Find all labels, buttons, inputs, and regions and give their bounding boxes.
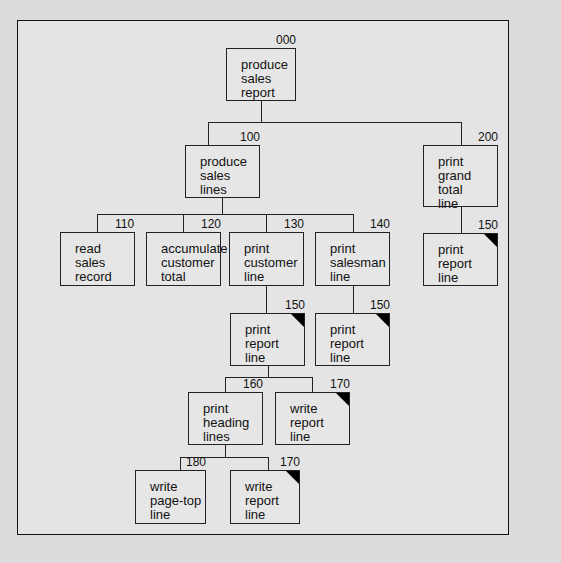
module-box: write report line (275, 392, 350, 445)
module-label: read sales record (75, 242, 112, 284)
shared-module-marker-icon (291, 314, 304, 327)
shared-module-marker-icon (376, 314, 389, 327)
module-number: 150 (478, 218, 498, 232)
shared-module-marker-icon (484, 234, 497, 247)
module-label: print customer line (244, 242, 297, 284)
module-label: print salesman line (330, 242, 386, 284)
module-number: 150 (370, 298, 390, 312)
module-box: print report line (230, 313, 305, 366)
module-box: print salesman line (315, 232, 390, 286)
module-box: print report line (423, 233, 498, 286)
module-box: write report line (230, 470, 300, 524)
module-number: 170 (330, 377, 350, 391)
module-number: 120 (201, 217, 221, 231)
module-label: write report line (290, 402, 324, 444)
module-box: print report line (315, 313, 390, 366)
module-box: produce sales lines (185, 145, 260, 198)
module-number: 160 (243, 377, 263, 391)
module-label: write report line (245, 480, 279, 522)
module-number: 100 (240, 130, 260, 144)
module-label: print report line (438, 243, 472, 285)
module-number: 110 (115, 217, 134, 231)
module-label: accumulate customer total (161, 242, 227, 284)
shared-module-marker-icon (336, 393, 349, 406)
module-number: 200 (478, 130, 498, 144)
module-label: print heading lines (203, 402, 249, 444)
module-box: print grand total line (423, 145, 498, 207)
module-number: 150 (285, 298, 305, 312)
module-box: produce sales report (226, 48, 296, 101)
module-box: accumulate customer total (146, 232, 221, 286)
module-box: print customer line (229, 232, 304, 286)
module-label: print grand total line (438, 155, 471, 211)
module-box: print heading lines (188, 392, 263, 445)
shared-module-marker-icon (286, 471, 299, 484)
module-box: write page-top line (135, 470, 206, 524)
module-label: print report line (330, 323, 364, 365)
module-number: 000 (276, 33, 296, 47)
module-number: 170 (280, 455, 300, 469)
module-number: 180 (186, 455, 206, 469)
module-number: 140 (370, 217, 390, 231)
module-label: print report line (245, 323, 279, 365)
module-box: read sales record (60, 232, 135, 286)
module-label: produce sales lines (200, 155, 247, 197)
module-number: 130 (284, 217, 304, 231)
module-label: write page-top line (150, 480, 201, 522)
module-label: produce sales report (241, 58, 288, 100)
